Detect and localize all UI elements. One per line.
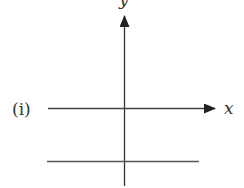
y-axis-label: y [118, 0, 129, 9]
part-label: (i) [12, 99, 31, 119]
graph-diagram: (i) x y [0, 0, 244, 188]
x-axis-label: x [224, 98, 234, 118]
